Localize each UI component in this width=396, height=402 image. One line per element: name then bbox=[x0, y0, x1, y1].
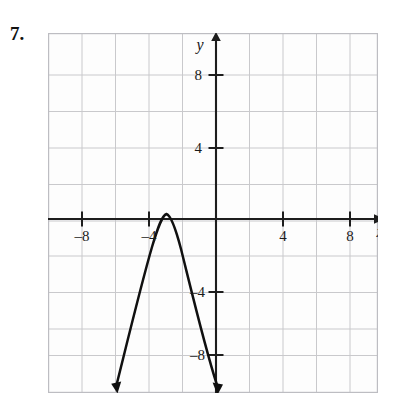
y-axis-label: y bbox=[194, 36, 204, 54]
x-tick-label-8: 8 bbox=[346, 228, 354, 244]
x-axis-label: x bbox=[375, 223, 378, 240]
y-tick-label-neg4: –4 bbox=[189, 284, 206, 300]
x-tick-label-neg4: –4 bbox=[141, 228, 158, 244]
x-tick-label-4: 4 bbox=[279, 228, 287, 244]
problem-number: 7. bbox=[10, 24, 24, 43]
coordinate-plane: y x 8 4 –4 –8 –8 –4 4 8 bbox=[48, 33, 378, 393]
y-tick-label-neg8: –8 bbox=[189, 347, 205, 363]
graph-panel: y x 8 4 –4 –8 –8 –4 4 8 bbox=[48, 33, 378, 393]
figure-root: 7. bbox=[0, 0, 396, 402]
grid-background bbox=[48, 33, 378, 393]
y-tick-label-4: 4 bbox=[195, 140, 203, 156]
x-tick-label-neg8: –8 bbox=[74, 228, 90, 244]
y-tick-label-8: 8 bbox=[195, 67, 203, 83]
